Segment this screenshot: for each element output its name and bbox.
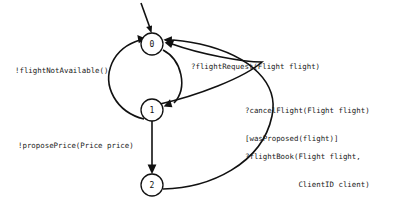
state-node-1-label: 1 bbox=[150, 106, 155, 115]
state-node-1[interactable]: 1 bbox=[141, 99, 163, 121]
edge-label-flight-book-line2: ClientID client) bbox=[245, 180, 370, 189]
edge-label-flight-book: ?flightBook(Flight flight, ClientID clie… bbox=[245, 133, 370, 206]
edge-propose-price bbox=[148, 121, 157, 174]
edge-label-flight-book-line1: ?flightBook(Flight flight, bbox=[245, 152, 370, 161]
state-node-2[interactable]: 2 bbox=[141, 174, 163, 196]
edge-label-flight-request: ?flightRequest(Flight flight) bbox=[191, 62, 320, 71]
state-machine-diagram: 0 1 2 !flightNotAvailable() !proposePric… bbox=[0, 0, 414, 206]
edge-label-cancel-flight-line1: ?cancelFlight(Flight flight) bbox=[245, 106, 370, 115]
state-node-2-label: 2 bbox=[150, 181, 155, 190]
edge-label-propose-price: !proposePrice(Price price) bbox=[18, 141, 134, 150]
state-node-0[interactable]: 0 bbox=[141, 33, 163, 55]
edge-label-flight-not-available: !flightNotAvailable() bbox=[15, 66, 108, 75]
state-node-0-label: 0 bbox=[150, 40, 155, 49]
initial-state-arrow bbox=[141, 3, 152, 33]
edge-flight-not-available bbox=[109, 35, 146, 119]
